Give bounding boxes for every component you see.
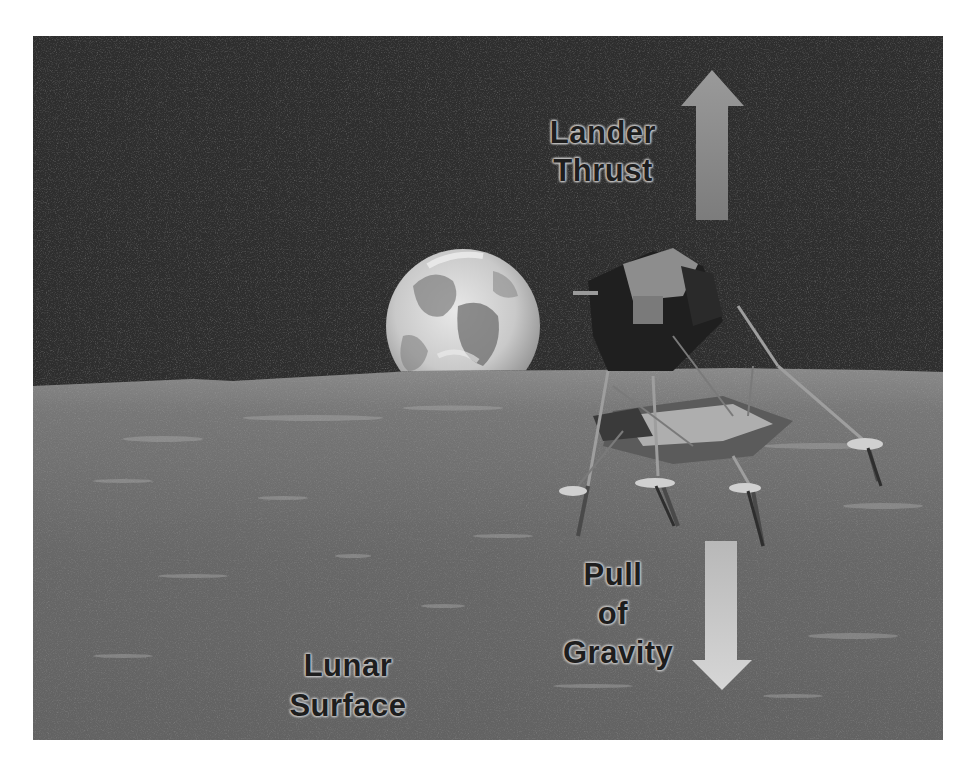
pull-of-gravity-label-line1: Pull xyxy=(563,555,663,594)
lunar-surface-label-line1: Lunar xyxy=(283,646,413,686)
lunar-lander-illustration: Lander Thrust Pull of Gravity Lunar Surf… xyxy=(33,36,943,740)
scene-graphics xyxy=(33,36,943,740)
pull-of-gravity-label-line3: Gravity xyxy=(563,633,663,672)
lunar-surface-label: Lunar Surface xyxy=(283,646,413,726)
lander-thrust-label-line1: Lander xyxy=(538,114,668,152)
lander-thrust-label-line2: Thrust xyxy=(538,152,668,190)
lander-thrust-label: Lander Thrust xyxy=(538,114,668,190)
pull-of-gravity-label: Pull of Gravity xyxy=(563,555,663,672)
pull-of-gravity-label-line2: of xyxy=(563,594,663,633)
lunar-surface xyxy=(33,368,943,740)
lunar-surface-label-line2: Surface xyxy=(283,686,413,726)
